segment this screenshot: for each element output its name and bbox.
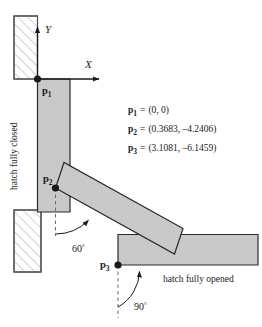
hatch-arm-opened xyxy=(118,235,258,266)
caption-hatch-closed: hatch fully closed xyxy=(9,122,19,190)
frame-block-upper xyxy=(14,16,38,79)
diagram-canvas: Y X 60° 90° p1 p2 p3 h xyxy=(0,0,262,327)
hatch-mechanism-diagram: Y X 60° 90° p1 p2 p3 h xyxy=(0,0,262,327)
caption-hatch-opened: hatch fully opened xyxy=(163,274,234,284)
frame-block-lower xyxy=(14,210,41,272)
x-axis-label: X xyxy=(84,58,93,70)
